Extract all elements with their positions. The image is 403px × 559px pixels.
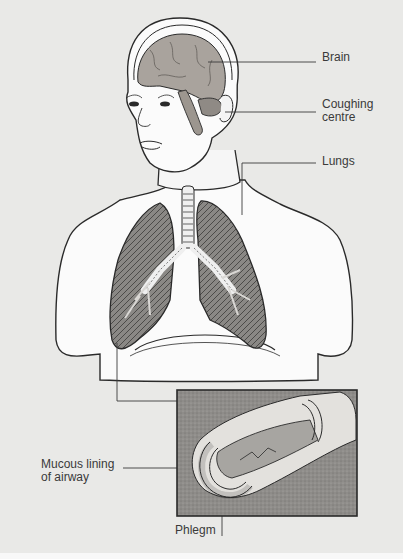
airway-inset <box>177 390 357 516</box>
head <box>126 18 238 172</box>
label-brain: Brain <box>322 51 350 64</box>
bottom-margin <box>0 553 403 559</box>
label-lungs: Lungs <box>322 155 355 168</box>
label-coughing-centre-line2: centre <box>322 111 392 124</box>
diagram-canvas: Brain Coughing centre Lungs Mucous linin… <box>0 0 403 553</box>
label-mucous-lining: Mucous lining of airway <box>41 458 131 484</box>
label-coughing-centre: Coughing centre <box>322 98 392 124</box>
label-phlegm: Phlegm <box>175 524 216 537</box>
label-mucous-line2: of airway <box>41 471 131 484</box>
